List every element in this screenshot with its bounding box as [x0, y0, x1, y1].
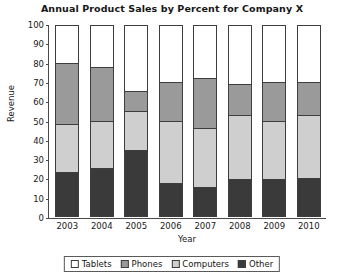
bar-segment-other[interactable] — [263, 179, 285, 216]
y-axis-tick: 0 — [39, 213, 49, 223]
legend-label: Phones — [132, 259, 163, 269]
bar-segment-computers[interactable] — [125, 111, 147, 149]
bar-segment-computers[interactable] — [56, 124, 78, 172]
legend-label: Computers — [182, 259, 229, 269]
legend-swatch-icon — [238, 260, 246, 268]
bar-stack — [193, 25, 217, 217]
bar-segment-tablets[interactable] — [125, 26, 147, 91]
x-axis-tick: 2006 — [160, 221, 182, 231]
chart-title: Annual Product Sales by Percent for Comp… — [0, 3, 344, 14]
y-axis-tick: 20 — [33, 174, 49, 184]
bar-column[interactable]: 2006 — [159, 25, 183, 217]
legend-item-computers[interactable]: Computers — [171, 259, 229, 269]
bar-segment-other[interactable] — [91, 168, 113, 216]
y-axis-tick: 70 — [33, 78, 49, 88]
bar-segment-computers[interactable] — [229, 115, 251, 180]
bar-stack — [159, 25, 183, 217]
bar-stack — [228, 25, 252, 217]
y-axis-tick: 60 — [33, 97, 49, 107]
bar-segment-other[interactable] — [125, 150, 147, 216]
bar-column[interactable]: 2009 — [262, 25, 286, 217]
bar-segment-tablets[interactable] — [229, 26, 251, 84]
x-axis-label: Year — [48, 234, 326, 244]
bar-segment-phones[interactable] — [91, 67, 113, 120]
bar-segment-other[interactable] — [56, 172, 78, 216]
bar-stack — [124, 25, 148, 217]
legend-swatch-icon — [171, 260, 179, 268]
bar-segment-other[interactable] — [194, 187, 216, 216]
bar-segment-tablets[interactable] — [298, 26, 320, 82]
bar-segment-computers[interactable] — [298, 115, 320, 178]
bar-segment-computers[interactable] — [160, 121, 182, 184]
bar-segment-other[interactable] — [229, 179, 251, 216]
bar-segment-tablets[interactable] — [263, 26, 285, 82]
y-axis-tick: 50 — [33, 117, 49, 127]
y-axis-tick: 90 — [33, 39, 49, 49]
bar-segment-phones[interactable] — [160, 82, 182, 120]
legend-item-phones[interactable]: Phones — [121, 259, 163, 269]
chart-legend: TabletsPhonesComputersOther — [64, 256, 280, 272]
legend-item-other[interactable]: Other — [238, 259, 273, 269]
bar-column[interactable]: 2007 — [193, 25, 217, 217]
x-axis-tick: 2003 — [56, 221, 78, 231]
bar-series-group: 20032004200520062007200820092010 — [50, 25, 326, 217]
x-axis-tick: 2010 — [298, 221, 320, 231]
y-axis-tick: 80 — [33, 59, 49, 69]
bar-segment-phones[interactable] — [194, 78, 216, 128]
legend-label: Tablets — [82, 259, 112, 269]
bar-segment-other[interactable] — [160, 183, 182, 216]
x-axis-tick: 2007 — [194, 221, 216, 231]
x-axis-tick: 2005 — [125, 221, 147, 231]
x-axis-tick: 2008 — [229, 221, 251, 231]
bar-segment-other[interactable] — [298, 178, 320, 216]
bar-segment-computers[interactable] — [91, 121, 113, 169]
legend-item-tablets[interactable]: Tablets — [71, 259, 112, 269]
bar-column[interactable]: 2010 — [297, 25, 321, 217]
legend-label: Other — [249, 259, 273, 269]
bar-segment-tablets[interactable] — [56, 26, 78, 63]
bar-stack — [90, 25, 114, 217]
stacked-bar-chart: Annual Product Sales by Percent for Comp… — [0, 0, 344, 279]
bar-column[interactable]: 2005 — [124, 25, 148, 217]
bar-segment-tablets[interactable] — [194, 26, 216, 78]
bar-stack — [262, 25, 286, 217]
x-axis-tick: 2009 — [263, 221, 285, 231]
bar-segment-phones[interactable] — [229, 84, 251, 115]
bar-segment-phones[interactable] — [125, 91, 147, 111]
bar-column[interactable]: 2008 — [228, 25, 252, 217]
bar-stack — [297, 25, 321, 217]
bar-segment-computers[interactable] — [263, 121, 285, 180]
legend-swatch-icon — [121, 260, 129, 268]
bar-segment-computers[interactable] — [194, 128, 216, 187]
bar-segment-phones[interactable] — [263, 82, 285, 120]
y-axis-tick: 100 — [28, 20, 49, 30]
y-axis-tick: 30 — [33, 155, 49, 165]
y-axis-label: Revenue — [6, 85, 16, 122]
legend-swatch-icon — [71, 260, 79, 268]
x-axis-tick: 2004 — [91, 221, 113, 231]
bar-column[interactable]: 2004 — [90, 25, 114, 217]
bar-column[interactable]: 2003 — [55, 25, 79, 217]
plot-area: 0102030405060708090100 20032004200520062… — [48, 25, 326, 219]
bar-stack — [55, 25, 79, 217]
bar-segment-tablets[interactable] — [160, 26, 182, 82]
y-axis-tick: 40 — [33, 136, 49, 146]
bar-segment-tablets[interactable] — [91, 26, 113, 67]
bar-segment-phones[interactable] — [298, 82, 320, 115]
y-axis-tick: 10 — [33, 194, 49, 204]
bar-segment-phones[interactable] — [56, 63, 78, 124]
